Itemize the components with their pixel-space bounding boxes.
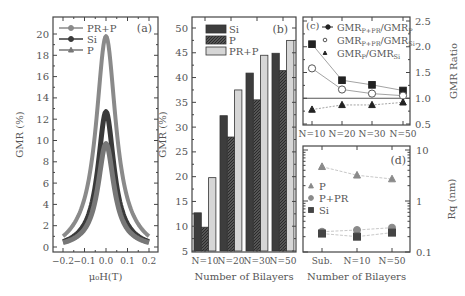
data-point-marker	[369, 82, 376, 89]
panel-label: (c)	[306, 20, 320, 31]
y-tick-label: 14	[36, 92, 49, 103]
legend-swatch	[206, 36, 226, 44]
data-point-marker	[309, 106, 316, 112]
y-tick-label: 4	[43, 199, 49, 210]
x-tick-label: N=50	[390, 129, 417, 139]
bar-pr-plus-p-n30	[261, 55, 268, 251]
data-point-marker	[338, 86, 345, 93]
legend-label: P+PR	[319, 193, 349, 204]
bar-si-n30	[246, 73, 253, 251]
data-point-marker	[389, 229, 396, 236]
panel-d-roughness: 0.1110Sub.N=10N=50Number of BilayersRq (…	[303, 145, 457, 283]
y-tick-label: 1.5	[415, 67, 431, 78]
x-axis-label: Number of Bilayers	[307, 271, 406, 282]
y-tick-label: 16	[36, 71, 49, 82]
y-tick-label: 30	[175, 122, 188, 133]
x-tick-label: N=10	[192, 256, 219, 266]
data-point-marker	[369, 101, 376, 107]
y-tick-label: 10	[416, 145, 429, 156]
x-tick-label: 0.0	[99, 256, 114, 266]
bar-pr-plus-p-n50	[287, 40, 294, 251]
y-tick-label: 40	[175, 72, 188, 83]
x-tick-label: 0.2	[142, 256, 156, 266]
legend-marker-icon	[309, 208, 314, 213]
bar-p-n20	[227, 137, 234, 251]
y-tick-label: 10	[175, 221, 188, 232]
panel-label: (b)	[272, 23, 288, 36]
legend-label: PR+P	[229, 46, 259, 57]
legend-label: Si	[229, 24, 239, 35]
panel-c-gmr-ratio: 0.51.01.52.02.5N=10N=20N=30N=50GMR Ratio…	[299, 16, 459, 140]
legend-marker-icon	[69, 37, 74, 42]
bar-pr-plus-p-n10	[209, 178, 216, 251]
bar-p-n30	[253, 100, 260, 251]
y-tick-label: 20	[175, 171, 188, 182]
y-tick-label: 0.5	[415, 119, 431, 130]
x-tick-label: 0.1	[120, 256, 134, 266]
legend-label: GMRP+PR/GMRSi	[337, 35, 415, 48]
y-tick-label: 0.1	[416, 247, 432, 258]
legend-marker-icon	[309, 183, 314, 188]
y-tick-label: 8	[43, 156, 49, 167]
x-tick-label: N=10	[299, 129, 326, 139]
y-axis-label: GMR (%)	[14, 111, 25, 157]
legend-label: PR+P	[87, 23, 117, 34]
legend-marker-icon	[69, 47, 74, 52]
y-tick-label: 5	[182, 246, 188, 257]
bar-si-n10	[194, 213, 201, 251]
data-point-marker	[339, 77, 346, 84]
panel-a-gmr-vs-field: 02468101214161820−0.2−0.10.00.10.2μ₀H(T)…	[14, 17, 158, 282]
x-axis-label: Number of Bilayers	[194, 271, 293, 282]
bar-p-n10	[201, 227, 208, 251]
x-tick-label: N=30	[359, 129, 386, 139]
data-point-marker	[319, 230, 326, 237]
legend-label: Si	[319, 205, 329, 216]
x-tick-label: −0.1	[74, 256, 96, 266]
legend-label: GMRP/GMRSi	[337, 48, 400, 61]
y-tick-label: 35	[175, 97, 188, 108]
legend-marker-icon	[69, 26, 74, 31]
series-line	[312, 102, 403, 109]
y-axis-label: Rq (nm)	[446, 178, 457, 219]
y-tick-label: 0	[43, 242, 49, 253]
curve-pr-plus-p	[63, 36, 149, 236]
bar-p-n50	[279, 71, 286, 251]
legend-label: P	[229, 35, 236, 46]
x-tick-label: N=50	[270, 256, 297, 266]
y-axis-label: GMR Ratio	[448, 43, 459, 99]
legend-label: P	[87, 45, 94, 56]
data-point-marker	[309, 41, 316, 48]
series-line	[312, 68, 403, 95]
x-tick-label: N=10	[344, 256, 371, 266]
legend-label: GMRP+PR/GMRP	[337, 22, 413, 35]
panel-b-gmr-bar-chart: N=10N=20N=30N=505101520253035404550Numbe…	[157, 17, 297, 282]
legend-marker-icon	[323, 51, 327, 54]
data-point-marker	[354, 227, 361, 234]
legend-marker-icon	[309, 196, 314, 201]
y-tick-label: 15	[175, 196, 188, 207]
legend-swatch	[206, 25, 226, 33]
y-tick-label: 2	[43, 220, 49, 231]
x-tick-label: −0.2	[52, 256, 74, 266]
y-tick-label: 20	[36, 29, 49, 40]
y-tick-label: 25	[175, 146, 188, 157]
x-tick-label: N=50	[379, 256, 406, 266]
legend-marker-icon	[326, 25, 330, 29]
data-point-marker	[308, 65, 315, 72]
panel-label: (d)	[390, 154, 406, 167]
legend-marker-icon	[323, 38, 327, 42]
data-point-marker	[319, 163, 326, 170]
y-tick-label: 18	[36, 50, 49, 61]
data-point-marker	[354, 233, 361, 240]
y-tick-label: 6	[43, 178, 49, 189]
y-tick-label: 1.0	[415, 93, 431, 104]
bar-pr-plus-p-n20	[235, 90, 242, 251]
data-point-marker	[339, 101, 346, 107]
legend-label: Si	[87, 34, 97, 45]
x-tick-label: N=30	[244, 256, 271, 266]
x-tick-label: N=20	[329, 129, 356, 139]
y-tick-label: 2.5	[415, 16, 431, 27]
data-point-marker	[400, 99, 407, 105]
legend-swatch	[206, 47, 226, 55]
x-tick-label: N=20	[218, 256, 245, 266]
